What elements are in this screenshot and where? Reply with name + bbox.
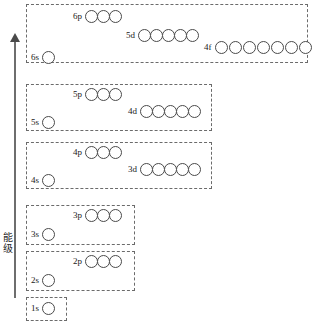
orbital-label-4s: 4s (31, 176, 39, 185)
orbital-slot-circle (42, 274, 55, 287)
orbital-slot-circle (215, 41, 228, 54)
orbital-slots-6s (42, 51, 55, 64)
orbital-label-3s: 3s (31, 230, 39, 239)
orbital-slot-circle (42, 174, 55, 187)
orbital-slots-4d (140, 105, 201, 118)
orbital-label-3p: 3p (73, 211, 82, 220)
orbital-label-1s: 1s (31, 304, 39, 313)
orbital-label-2p: 2p (73, 257, 82, 266)
orbital-label-5s: 5s (31, 118, 39, 127)
orbital-slot-circle (243, 41, 256, 54)
orbital-label-6p: 6p (73, 12, 82, 21)
orbital-label-3d: 3d (128, 165, 137, 174)
orbital-slots-4s (42, 174, 55, 187)
orbital-slots-2p (85, 255, 122, 268)
orbital-slots-4p (85, 146, 122, 159)
orbital-slot-circle (109, 209, 122, 222)
orbital-row-5d: 5d (126, 29, 199, 42)
orbital-label-6s: 6s (31, 53, 39, 62)
orbital-label-4d: 4d (128, 107, 137, 116)
orbital-slot-circle (42, 302, 55, 315)
orbital-row-4d: 4d (128, 105, 201, 118)
orbital-slot-circle (109, 10, 122, 23)
orbital-row-6p: 6p (73, 10, 122, 23)
orbital-slots-2s (42, 274, 55, 287)
orbital-slots-5p (85, 88, 122, 101)
energy-axis-label: 能级 (0, 232, 16, 254)
orbital-slots-5d (138, 29, 199, 42)
orbital-row-6s: 6s (31, 51, 55, 64)
orbital-row-2p: 2p (73, 255, 122, 268)
orbital-slot-circle (188, 105, 201, 118)
orbital-slot-circle (42, 116, 55, 129)
orbital-label-2s: 2s (31, 276, 39, 285)
energy-level-diagram: 能级 6p5d4f6s5p4d5s4p3d4s3p3s2p2s1s (0, 0, 315, 327)
energy-axis-line (14, 40, 16, 298)
orbital-label-5p: 5p (73, 90, 82, 99)
orbital-slot-circle (109, 255, 122, 268)
orbital-slot-circle (271, 41, 284, 54)
orbital-slots-3d (140, 163, 201, 176)
orbital-row-5s: 5s (31, 116, 55, 129)
orbital-row-3s: 3s (31, 228, 55, 241)
orbital-row-3p: 3p (73, 209, 122, 222)
orbital-row-4s: 4s (31, 174, 55, 187)
orbital-row-4f: 4f (204, 41, 313, 54)
orbital-slot-circle (42, 51, 55, 64)
orbital-slots-3s (42, 228, 55, 241)
orbital-slot-circle (299, 41, 312, 54)
orbital-slot-circle (109, 146, 122, 159)
orbital-slot-circle (109, 88, 122, 101)
orbital-slot-circle (257, 41, 270, 54)
orbital-label-4f: 4f (204, 43, 212, 52)
orbital-row-5p: 5p (73, 88, 122, 101)
orbital-slot-circle (229, 41, 242, 54)
orbital-row-4p: 4p (73, 146, 122, 159)
energy-axis-arrowhead-icon (10, 33, 20, 42)
orbital-slots-3p (85, 209, 122, 222)
orbital-slot-circle (186, 29, 199, 42)
orbital-slots-6p (85, 10, 122, 23)
orbital-slots-4f (215, 41, 313, 54)
orbital-row-2s: 2s (31, 274, 55, 287)
orbital-row-1s: 1s (31, 302, 55, 315)
orbital-label-4p: 4p (73, 148, 82, 157)
orbital-slots-1s (42, 302, 55, 315)
orbital-slots-5s (42, 116, 55, 129)
orbital-slot-circle (42, 228, 55, 241)
orbital-slot-circle (285, 41, 298, 54)
orbital-slot-circle (188, 163, 201, 176)
orbital-label-5d: 5d (126, 31, 135, 40)
orbital-row-3d: 3d (128, 163, 201, 176)
